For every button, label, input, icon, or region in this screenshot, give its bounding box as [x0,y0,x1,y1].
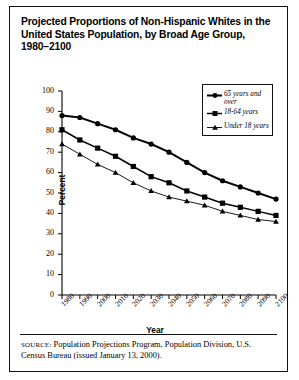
chart-legend: 65 years and over18-64 yearsUnder 18 yea… [202,84,273,136]
y-axis-title: Percent [57,160,67,220]
y-axis-tick-label: 100 [32,86,54,95]
legend-item-label: Under 18 years [224,122,276,130]
legend-item-label: 18-64 years [224,108,276,116]
figure-panel: Projected Proportions of Non-Hispanic Wh… [9,6,288,372]
y-axis-tick-label: 80 [32,126,54,135]
square-marker-icon [207,109,223,118]
triangle-marker-icon [207,123,223,132]
legend-item-label: 65 years and over [224,90,276,106]
y-axis-tick-label: 10 [32,269,54,278]
y-axis-tick-label: 40 [32,208,54,217]
y-axis-tick-label: 50 [32,188,54,197]
plot-area: 0102030405060708090100198019902000201020… [10,7,289,373]
series-square [59,127,278,218]
y-axis-tick-label: 0 [32,290,54,299]
source-divider [20,334,277,335]
circle-marker-icon [207,91,223,100]
y-axis-tick-label: 60 [32,167,54,176]
source-prefix: SOURCE: [21,341,52,348]
y-axis-tick-label: 90 [32,106,54,115]
y-axis-tick-label: 30 [32,228,54,237]
source-body: Population Projections Program, Populati… [21,340,251,360]
y-axis-tick-label: 70 [32,147,54,156]
y-axis-tick-label: 20 [32,249,54,258]
source-note: SOURCE: Population Projections Program, … [21,340,277,361]
